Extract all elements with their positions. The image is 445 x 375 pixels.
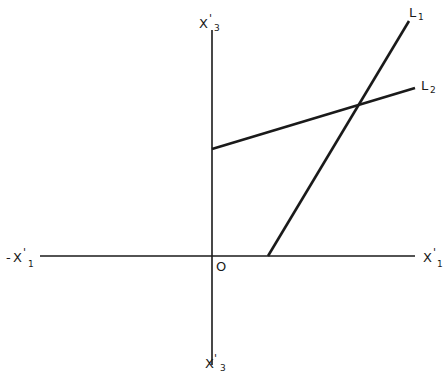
- line-l1: [268, 21, 409, 256]
- svg-text:3: 3: [220, 363, 226, 373]
- diagram-canvas: X ' 3 X ' 3 - X ' 1 X ' 1 O L 1 L 2: [0, 0, 445, 375]
- label-horizontal-positive: X ' 1: [423, 246, 443, 269]
- label-horizontal-negative: - X ' 1: [6, 246, 34, 269]
- label-l2: L 2: [421, 78, 436, 95]
- svg-text:': ': [214, 352, 217, 365]
- svg-text:1: 1: [28, 259, 34, 269]
- label-l1: L 1: [409, 5, 424, 22]
- svg-text:': ': [209, 12, 212, 25]
- line-l2: [212, 88, 415, 149]
- svg-text:X: X: [423, 250, 432, 265]
- svg-text:L: L: [409, 5, 417, 20]
- svg-text:X: X: [13, 250, 22, 265]
- svg-text:': ': [23, 246, 26, 259]
- svg-text:3: 3: [214, 23, 220, 33]
- origin-label: O: [216, 259, 226, 274]
- label-vertical-positive: X ' 3: [199, 12, 220, 33]
- svg-text:X: X: [199, 16, 208, 31]
- svg-text:2: 2: [430, 85, 436, 95]
- svg-text:1: 1: [418, 12, 424, 22]
- label-vertical-negative: X ' 3: [205, 352, 226, 373]
- svg-text:L: L: [421, 78, 429, 93]
- svg-text:-: -: [6, 250, 11, 265]
- svg-text:X: X: [205, 356, 214, 371]
- svg-text:': ': [433, 246, 436, 259]
- svg-text:1: 1: [437, 259, 443, 269]
